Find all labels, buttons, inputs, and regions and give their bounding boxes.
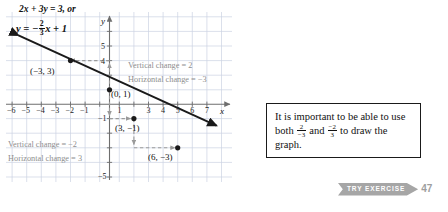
slope-numerator: 2: [39, 20, 45, 28]
annotation-vertical-change-neg2: Vertical change = −2: [8, 141, 77, 149]
callout-fraction-2: −23: [328, 123, 337, 138]
x-axis-label: x: [220, 107, 224, 116]
x-tick--6: −6: [7, 107, 16, 115]
x-tick-4: 4: [161, 107, 165, 115]
x-tick--1: −1: [80, 107, 89, 115]
coordinate-graph: 2x + 3y = 3, or y = −23x + 1 y x −6 −5 −…: [0, 0, 238, 185]
y-axis-label: y: [101, 17, 105, 26]
annotation-vertical-change-2: Vertical change = 2: [128, 62, 192, 70]
equation-standard-form: 2x + 3y = 3, or: [19, 5, 76, 15]
callout-fraction-1-numerator: 2: [297, 123, 306, 130]
callout-fraction-2-denominator: 3: [328, 130, 337, 138]
y-tick-4: 4: [101, 58, 105, 66]
figure-root: 2x + 3y = 3, or y = −23x + 1 y x −6 −5 −…: [0, 0, 448, 212]
x-tick-3: 3: [147, 107, 151, 115]
x-tick-7: 7: [205, 107, 209, 115]
point-label-neg3-3: (−3, 3): [30, 67, 55, 76]
callout-text-middle: and: [307, 126, 327, 137]
annotation-horizontal-change-neg3: Horizontal change = −3: [128, 76, 207, 84]
point-label-0-1: (0, 1): [111, 90, 131, 99]
point-label-6-neg3: (6, −3): [148, 153, 173, 162]
point-3-neg1: [131, 116, 136, 121]
callout-fraction-1-denominator: −3: [297, 130, 306, 138]
callout-fraction-1: 2−3: [297, 123, 306, 138]
equation-suffix: x + 1: [45, 23, 67, 34]
callout-box: It is important to be able to use both 2…: [266, 103, 421, 158]
slope-denominator: 3: [39, 28, 45, 37]
x-tick-6: 6: [190, 107, 194, 115]
point-6-neg3: [175, 145, 180, 150]
y-tick-5: 5: [101, 43, 105, 51]
x-tick-5: 5: [176, 107, 180, 115]
point-label-3-neg1: (3, −1): [115, 124, 140, 133]
x-tick--3: −3: [51, 107, 60, 115]
x-tick--4: −4: [36, 107, 45, 115]
try-exercise-label[interactable]: TRY EXERCISE: [338, 183, 418, 196]
try-exercise-badge[interactable]: TRY EXERCISE 47: [338, 183, 432, 196]
slope-fraction: 23: [39, 20, 45, 37]
equation-slope-intercept-form: y = −23x + 1: [16, 20, 67, 37]
x-tick-1: 1: [118, 107, 122, 115]
try-exercise-number[interactable]: 47: [421, 184, 432, 194]
equation-prefix: y = −: [16, 23, 38, 34]
y-tick--5: −5: [98, 173, 107, 181]
callout-fraction-2-numerator: −2: [328, 123, 337, 130]
x-tick--5: −5: [22, 107, 31, 115]
annotation-horizontal-change-3: Horizontal change = 3: [8, 155, 82, 163]
y-tick--1: −1: [98, 115, 107, 123]
x-tick--2: −2: [65, 107, 74, 115]
point-neg3-3: [68, 58, 73, 63]
